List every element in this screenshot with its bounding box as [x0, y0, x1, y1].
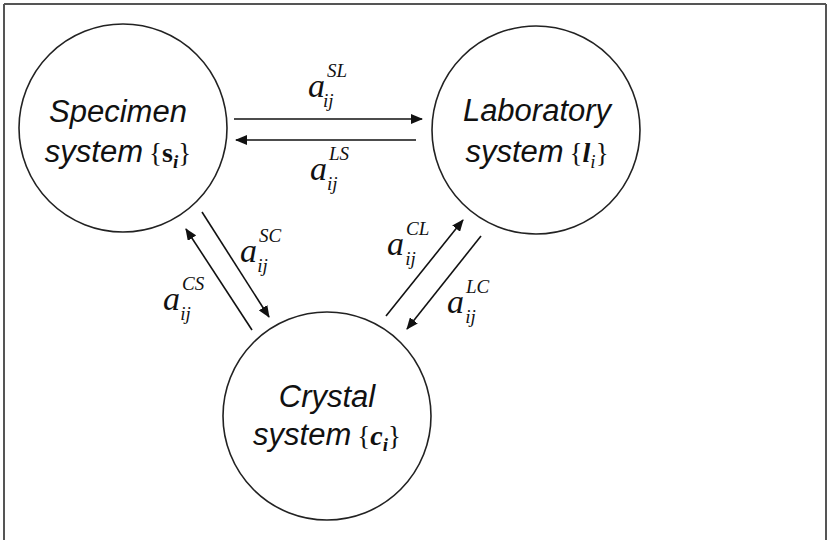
edge-laboratory-to-crystal: aLCij [407, 236, 490, 329]
coef-cs: aCSij [163, 273, 205, 324]
specimen-title: Specimen [49, 94, 187, 129]
frame [4, 4, 826, 540]
coef-ls: aLSij [310, 143, 350, 194]
specimen-subtitle: system{si} [45, 134, 191, 172]
coef-sc: aSCij [240, 225, 282, 276]
crystal-subtitle: system{ci} [253, 417, 401, 455]
node-crystal: Crystal system{ci} [223, 312, 431, 520]
crystal-circle [223, 312, 431, 520]
coef-lc: aLCij [447, 276, 490, 327]
laboratory-subtitle: system{li} [465, 134, 608, 172]
edge-crystal-to-specimen: aCSij [163, 229, 252, 330]
coef-sl: aSLij [308, 60, 347, 111]
edge-laboratory-to-specimen: aLSij [236, 140, 416, 194]
node-specimen: Specimen system{si} [19, 24, 227, 232]
edge-specimen-to-laboratory: aSLij [234, 60, 422, 119]
diagram-canvas: Specimen system{si} Laboratory system{li… [0, 0, 830, 540]
crystal-title: Crystal [279, 379, 377, 414]
laboratory-title: Laboratory [463, 93, 614, 128]
laboratory-circle [432, 26, 640, 234]
coef-cl: aCLij [387, 218, 429, 269]
edge-specimen-to-crystal: aSCij [202, 212, 282, 317]
node-laboratory: Laboratory system{li} [432, 26, 640, 234]
